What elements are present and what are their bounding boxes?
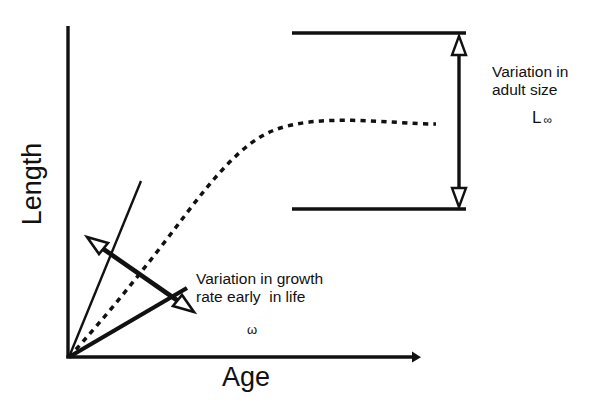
axes-group — [66, 26, 421, 363]
figure-canvas — [0, 0, 605, 408]
adult-size-annotation-line2: adult size — [492, 81, 568, 99]
x-axis-label: Age — [196, 362, 296, 394]
infinity-icon: ∞ — [541, 113, 552, 127]
y-axis-label: Length — [17, 129, 49, 239]
adult-size-arrowhead-bottom — [452, 188, 466, 207]
growth-curve-figure: Length Age Variation in growthrate early… — [0, 0, 605, 408]
x-axis-arrowhead — [412, 352, 421, 363]
growth-rate-annotation: Variation in growthrate early in life — [196, 270, 323, 307]
adult-size-bounds-group — [292, 33, 466, 209]
shallow-growth-ray — [69, 288, 187, 357]
growth-rate-annotation-line2: rate early in life — [196, 288, 323, 306]
adult-size-variation-arrow — [452, 36, 466, 207]
growth-rate-annotation-line1: Variation in growth — [196, 270, 323, 287]
growth-rate-arrow-shaft — [99, 246, 181, 303]
adult-size-arrowhead-top — [452, 36, 466, 55]
omega-symbol-label: ω — [196, 322, 308, 337]
adult-size-annotation: Variation inadult size — [492, 63, 568, 100]
early-growth-rays-group — [69, 181, 187, 357]
adult-size-annotation-line1: Variation in — [492, 63, 568, 80]
l-infinity-symbol-label: L∞ — [492, 108, 592, 128]
